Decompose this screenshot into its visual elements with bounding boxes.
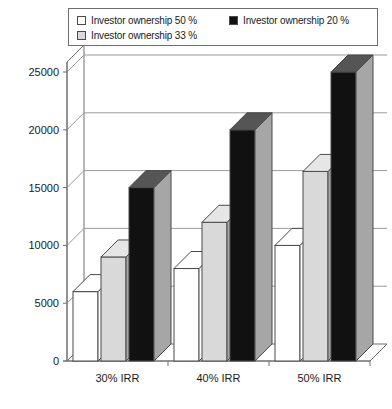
bar-front-face [275, 245, 300, 361]
bar-side-face [356, 55, 373, 361]
bar-front-face [331, 72, 356, 361]
bar-front-face [230, 130, 255, 361]
x-axis-category-label-2: 50% IRR [297, 372, 341, 384]
bar-front-face [101, 257, 126, 361]
x-axis-category-label-1: 40% IRR [196, 372, 240, 384]
y-axis-tick-label-10000: 10000 [28, 239, 59, 251]
bar-side-face [255, 113, 272, 361]
bar-front-face [303, 171, 328, 361]
bar-front-face [73, 292, 98, 361]
bar-1-2[interactable] [230, 113, 272, 361]
y-axis-tick-label-25000: 25000 [28, 66, 59, 78]
bar-chart-plot: 050001000015000200002500030% IRR40% IRR5… [0, 0, 392, 409]
bar-0-2[interactable] [129, 171, 171, 361]
x-axis-category-label-0: 30% IRR [95, 372, 139, 384]
bar-side-face [154, 171, 171, 361]
chart-container: Investor ownership 50 % Investor ownersh… [0, 0, 392, 409]
y-axis-tick-label-0: 0 [53, 355, 59, 367]
bar-front-face [202, 222, 227, 361]
y-axis-tick-label-20000: 20000 [28, 124, 59, 136]
y-axis-tick-label-15000: 15000 [28, 182, 59, 194]
y-axis-tick-label-5000: 5000 [35, 297, 59, 309]
bar-front-face [174, 269, 199, 361]
bar-front-face [129, 188, 154, 361]
bar-2-2[interactable] [331, 55, 373, 361]
